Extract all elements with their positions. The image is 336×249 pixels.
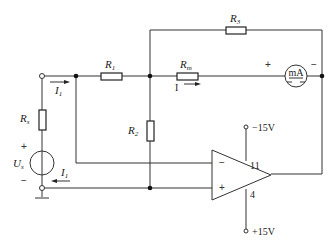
svg-text:I1: I1 xyxy=(60,166,68,180)
current-i1-top: I1 xyxy=(50,80,70,98)
source-branch: Rs Us + − xyxy=(13,76,54,198)
inverting-input-wire xyxy=(76,76,212,163)
current-i-arrow: I xyxy=(175,82,201,93)
r1-label: R1 xyxy=(104,58,115,72)
pin-4-label: 4 xyxy=(250,189,255,200)
pin-11-label: 11 xyxy=(250,160,260,171)
meter-minus: − xyxy=(311,59,317,70)
opamp-inverting-sign: − xyxy=(219,157,225,168)
op-amp: − + −15V +15V 11 4 xyxy=(212,122,276,237)
resistor-r2 xyxy=(147,121,154,141)
us-label: Us xyxy=(13,157,24,171)
svg-text:I: I xyxy=(175,82,178,93)
us-plus: + xyxy=(21,141,27,152)
supply-neg-label: −15V xyxy=(252,122,276,133)
rs-label: Rs xyxy=(19,112,30,126)
svg-text:I1: I1 xyxy=(54,84,62,98)
r2-label: R2 xyxy=(127,124,139,138)
junction-node xyxy=(320,74,325,79)
junction-node xyxy=(148,74,153,79)
r2-branch: R2 xyxy=(127,76,154,188)
supply-terminal-bottom xyxy=(244,229,248,233)
r3-label: R3 xyxy=(229,12,241,26)
opamp-noninverting-sign: + xyxy=(219,182,225,193)
resistor-r3 xyxy=(226,27,246,34)
resistor-r1 xyxy=(101,73,122,80)
meter-plus: + xyxy=(265,59,271,70)
output-wire xyxy=(271,76,322,174)
supply-pos-label: +15V xyxy=(252,226,276,237)
input-terminal-top xyxy=(40,74,45,79)
us-minus: − xyxy=(21,175,27,186)
resistor-rs xyxy=(39,110,46,130)
junction-node xyxy=(74,74,79,79)
meter-label: mA xyxy=(289,67,305,78)
input-terminal-bottom xyxy=(40,186,45,191)
resistor-rm xyxy=(177,73,198,80)
current-i1-bottom: I1 xyxy=(51,166,70,183)
main-wire: R1 Rm xyxy=(42,58,322,80)
rm-label: Rm xyxy=(179,58,192,72)
junction-node xyxy=(148,186,153,191)
milliammeter: mA + − xyxy=(265,59,317,87)
supply-terminal-top xyxy=(244,125,248,129)
circuit-diagram: R3 R1 Rm I mA + − Rs Us + − xyxy=(0,0,336,249)
